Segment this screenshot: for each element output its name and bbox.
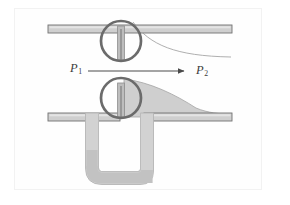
pressure-label-p2: P2: [196, 64, 208, 78]
manometer-fluid-right: [141, 170, 152, 183]
lower-pipe-wall-right: [144, 113, 232, 121]
orifice-flow-diagram: [0, 0, 290, 205]
upper-orifice-valve: [101, 21, 141, 61]
u-tube-manometer: [86, 113, 154, 185]
pressure-label-p1-symbol: P: [70, 61, 78, 75]
figure-root: P1 P2: [0, 0, 290, 205]
pressure-label-p2-symbol: P: [196, 63, 204, 77]
pressure-label-p1: P1: [70, 62, 82, 76]
pressure-label-p2-subscript: 2: [204, 69, 208, 78]
pressure-label-p1-subscript: 1: [78, 67, 82, 76]
